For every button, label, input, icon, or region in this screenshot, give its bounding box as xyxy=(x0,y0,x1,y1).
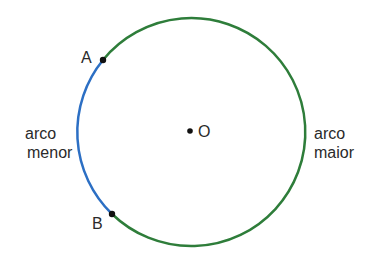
label-o: O xyxy=(198,122,210,141)
point-b xyxy=(109,211,115,217)
minor-arc-label-line1: arco xyxy=(25,124,72,143)
center-point-o xyxy=(187,128,193,134)
minor-arc-label-line2: menor xyxy=(27,143,72,162)
label-a: A xyxy=(81,48,92,67)
major-arc-label-line2: maior xyxy=(314,143,354,162)
minor-arc xyxy=(77,60,112,214)
label-b: B xyxy=(92,214,103,233)
major-arc-label: arco maior xyxy=(314,124,354,162)
point-a xyxy=(100,57,106,63)
major-arc-label-line1: arco xyxy=(314,124,354,143)
minor-arc-label: arco menor xyxy=(25,124,72,162)
